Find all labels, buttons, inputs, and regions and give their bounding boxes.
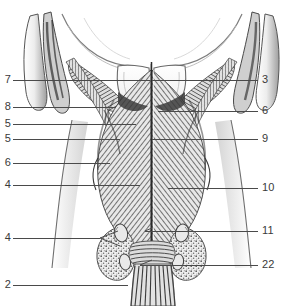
callout-label-10-right-3: 10: [262, 182, 275, 193]
callout-label-7-left-0: 7: [2, 74, 11, 85]
leader-line-2-left-7: [13, 285, 128, 286]
anatomy-illustration: [0, 0, 303, 306]
leader-line-5-left-3: [13, 139, 120, 140]
callout-label-4-left-5: 4: [2, 179, 11, 190]
leader-line-11-right-4: [145, 231, 258, 232]
callout-label-2-left-7: 2: [2, 279, 11, 290]
leader-line-8-left-1: [13, 107, 116, 108]
leader-line-4-left-5: [13, 185, 140, 186]
callout-label-9-right-2: 9: [262, 133, 268, 144]
leader-line-10-right-3: [168, 188, 258, 189]
callout-label-6-right-1: 6: [262, 105, 268, 116]
anatomical-figure: 78556442369101122: [0, 0, 303, 306]
leader-line-4-left-6: [13, 238, 100, 239]
callout-label-3-right-0: 3: [262, 74, 268, 85]
leader-line-3-right-0: [152, 80, 258, 81]
callout-label-5-left-2: 5: [2, 118, 11, 129]
leader-line-5-left-2: [13, 124, 136, 125]
leader-line-9-right-2: [152, 139, 258, 140]
callout-label-6-left-4: 6: [2, 157, 11, 168]
callout-label-8-left-1: 8: [2, 101, 11, 112]
leader-line-7-left-0: [13, 80, 150, 81]
callout-label-11-right-4: 11: [262, 225, 274, 236]
leader-line-6-left-4: [13, 163, 110, 164]
callout-label-5-left-3: 5: [2, 133, 11, 144]
leader-line-6-right-1: [158, 111, 258, 112]
callout-label-22-right-5: 22: [262, 259, 275, 270]
leader-line-22-right-5: [140, 265, 258, 266]
callout-label-4-left-6: 4: [2, 232, 11, 243]
